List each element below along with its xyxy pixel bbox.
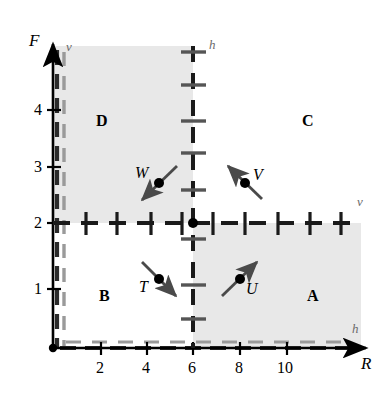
vector-label-W: W — [135, 165, 148, 181]
shaded-region-D — [53, 46, 193, 223]
f-tick-1: 1 — [34, 281, 42, 297]
r-tick-10: 10 — [277, 360, 293, 376]
f-axis-label: F — [29, 32, 39, 49]
r-tick-2: 2 — [96, 360, 104, 376]
f-tick-3: 3 — [34, 159, 42, 175]
region-label-B: B — [99, 288, 110, 304]
f-tick-4: 4 — [34, 102, 42, 118]
region-label-D: D — [96, 113, 108, 129]
vector-label-T: T — [139, 279, 148, 295]
x-axis-nullcline-label: h — [352, 322, 359, 335]
f-tick-2: 2 — [34, 215, 42, 231]
vector-T-point — [154, 274, 164, 284]
vector-label-V: V — [253, 167, 263, 183]
region-label-C: C — [302, 113, 314, 129]
vector-label-U: U — [246, 281, 258, 297]
vector-W-point — [154, 178, 164, 188]
equilibrium-point — [188, 218, 198, 228]
origin-dot — [49, 344, 57, 352]
vector-V-point — [240, 178, 250, 188]
vertical-nullcline-label: h — [209, 38, 216, 51]
r-tick-4: 4 — [142, 360, 150, 376]
vector-U-point — [235, 274, 245, 284]
horizontal-nullcline-label: v — [357, 195, 363, 208]
r-tick-6: 6 — [188, 360, 196, 376]
shaded-region-A — [193, 223, 361, 348]
region-label-A: A — [307, 288, 319, 304]
y-axis-nullcline-label: v — [66, 40, 72, 53]
r-tick-8: 8 — [235, 360, 243, 376]
direction-field-diagram — [0, 0, 385, 406]
r-axis-label: R — [361, 355, 371, 372]
